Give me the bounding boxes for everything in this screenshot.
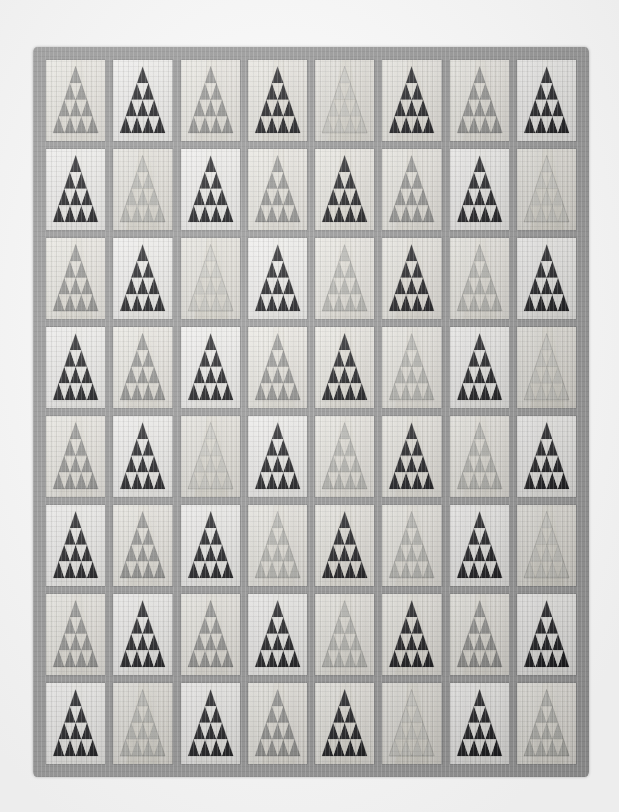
- quilt-block-cell: [311, 145, 378, 234]
- quilt-block-r4-c5: [315, 327, 374, 408]
- quilt-block-cell: [109, 590, 176, 679]
- quilt-block-r3-c6: [382, 238, 441, 319]
- quilt-block-cell: [378, 590, 445, 679]
- quilt-block-cell: [378, 234, 445, 323]
- quilt-block-cell: [109, 501, 176, 590]
- quilt-block-r4-c1: [46, 327, 105, 408]
- quilt-block-r3-c7: [450, 238, 509, 319]
- quilt-block-r2-c1: [46, 149, 105, 230]
- quilt-block-cell: [513, 501, 580, 590]
- quilt-block-cell: [177, 145, 244, 234]
- quilt-block-r6-c3: [181, 505, 240, 586]
- quilt-block-cell: [244, 145, 311, 234]
- quilt-block-r7-c3: [181, 594, 240, 675]
- quilt-block-cell: [513, 590, 580, 679]
- quilt-block-cell: [177, 56, 244, 145]
- quilt-block-cell: [311, 56, 378, 145]
- quilt-block-r4-c2: [113, 327, 172, 408]
- quilt-block-cell: [446, 323, 513, 412]
- quilt-block-cell: [42, 679, 109, 768]
- quilt-block-cell: [177, 590, 244, 679]
- quilt-block-cell: [42, 412, 109, 501]
- quilt-block-cell: [446, 590, 513, 679]
- quilt-block-r1-c8: [517, 60, 576, 141]
- quilt-block-cell: [311, 590, 378, 679]
- quilt-block-cell: [378, 679, 445, 768]
- quilt-block-cell: [311, 679, 378, 768]
- quilt-block-cell: [244, 234, 311, 323]
- quilt-block-r8-c8: [517, 683, 576, 764]
- quilt-block-r7-c7: [450, 594, 509, 675]
- quilt-block-r8-c4: [248, 683, 307, 764]
- quilt-block-cell: [42, 56, 109, 145]
- quilt-block-r4-c4: [248, 327, 307, 408]
- quilt-block-r2-c8: [517, 149, 576, 230]
- quilt-block-r2-c7: [450, 149, 509, 230]
- quilt-block-cell: [177, 679, 244, 768]
- quilt-block-r3-c8: [517, 238, 576, 319]
- quilt-block-cell: [177, 412, 244, 501]
- quilt-block-r4-c6: [382, 327, 441, 408]
- quilt-block-r5-c3: [181, 416, 240, 497]
- quilt-block-r6-c4: [248, 505, 307, 586]
- quilt-body: [33, 47, 589, 777]
- quilt-block-cell: [109, 323, 176, 412]
- quilt-block-cell: [244, 323, 311, 412]
- quilt-block-grid: [33, 47, 589, 777]
- quilt-block-cell: [244, 56, 311, 145]
- quilt-block-r8-c1: [46, 683, 105, 764]
- quilt-block-r2-c2: [113, 149, 172, 230]
- quilt-block-r6-c2: [113, 505, 172, 586]
- quilt-block-cell: [446, 234, 513, 323]
- quilt-block-r8-c2: [113, 683, 172, 764]
- quilt-block-r3-c1: [46, 238, 105, 319]
- quilt-block-cell: [378, 145, 445, 234]
- quilt-block-cell: [311, 501, 378, 590]
- quilt-block-r4-c7: [450, 327, 509, 408]
- quilt-block-cell: [446, 501, 513, 590]
- quilt-block-r1-c6: [382, 60, 441, 141]
- quilt-block-cell: [513, 234, 580, 323]
- quilt-block-r8-c3: [181, 683, 240, 764]
- quilt-block-r5-c5: [315, 416, 374, 497]
- quilt-block-cell: [446, 145, 513, 234]
- quilt-block-r4-c3: [181, 327, 240, 408]
- quilt-block-cell: [42, 323, 109, 412]
- quilt-block-r6-c6: [382, 505, 441, 586]
- quilt-block-cell: [446, 56, 513, 145]
- quilt-block-cell: [109, 412, 176, 501]
- quilt-block-r8-c6: [382, 683, 441, 764]
- quilt-block-r1-c5: [315, 60, 374, 141]
- quilt-block-r4-c8: [517, 327, 576, 408]
- quilt-block-r5-c6: [382, 416, 441, 497]
- quilt-photograph: [0, 0, 619, 812]
- quilt-block-cell: [177, 501, 244, 590]
- quilt-block-r7-c2: [113, 594, 172, 675]
- quilt-block-cell: [244, 590, 311, 679]
- quilt-block-cell: [177, 323, 244, 412]
- quilt-block-r7-c1: [46, 594, 105, 675]
- quilt-block-r1-c2: [113, 60, 172, 141]
- quilt-block-r3-c3: [181, 238, 240, 319]
- quilt-block-r8-c7: [450, 683, 509, 764]
- quilt-block-cell: [244, 501, 311, 590]
- quilt-block-r8-c5: [315, 683, 374, 764]
- quilt-block-r7-c6: [382, 594, 441, 675]
- quilt-block-r5-c1: [46, 416, 105, 497]
- quilt-block-cell: [42, 145, 109, 234]
- quilt-block-r2-c4: [248, 149, 307, 230]
- quilt-block-r6-c8: [517, 505, 576, 586]
- quilt-block-cell: [244, 412, 311, 501]
- quilt-block-r3-c5: [315, 238, 374, 319]
- quilt-block-r1-c3: [181, 60, 240, 141]
- quilt-block-cell: [513, 56, 580, 145]
- quilt-block-cell: [311, 234, 378, 323]
- quilt-block-r6-c7: [450, 505, 509, 586]
- quilt-block-r2-c6: [382, 149, 441, 230]
- quilt-block-r7-c5: [315, 594, 374, 675]
- quilt-block-r5-c8: [517, 416, 576, 497]
- quilt-block-r1-c1: [46, 60, 105, 141]
- quilt-block-cell: [177, 234, 244, 323]
- quilt-block-r5-c7: [450, 416, 509, 497]
- quilt-block-cell: [311, 412, 378, 501]
